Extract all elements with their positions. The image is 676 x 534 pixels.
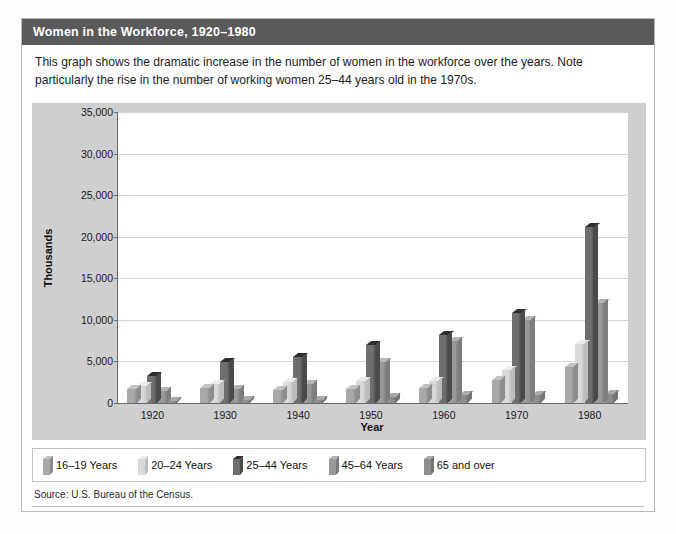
y-tick-label: 0	[107, 397, 113, 409]
bar-side	[501, 375, 505, 403]
legend-swatch-face	[43, 459, 50, 475]
x-tick-label: 1980	[565, 409, 615, 421]
bar-side	[458, 336, 462, 403]
bar	[200, 388, 210, 403]
bar-side	[614, 389, 618, 403]
y-tick-label: 25,000	[81, 189, 113, 201]
bar-side	[531, 315, 535, 403]
y-tick-label: 30,000	[81, 148, 113, 160]
bar-side	[594, 222, 598, 403]
bar-face	[273, 390, 283, 403]
bar-group: 1970	[492, 112, 542, 403]
bar-group: 1980	[565, 112, 615, 403]
x-tick-label: 1950	[346, 409, 396, 421]
bar-side	[448, 330, 452, 403]
y-tick-label: 5,000	[87, 355, 113, 367]
bar-side	[366, 377, 370, 403]
bar-side	[230, 358, 234, 403]
y-tick-mark	[114, 195, 118, 196]
y-tick-label: 35,000	[81, 106, 113, 118]
bar	[419, 388, 429, 403]
legend-swatch-side	[50, 455, 53, 474]
y-tick-mark	[114, 320, 118, 321]
bar-face	[419, 388, 429, 403]
bar-side	[541, 390, 545, 403]
page-background: Women in the Workforce, 1920–1980 This g…	[0, 0, 676, 534]
bar	[346, 389, 356, 403]
legend-swatch-face	[424, 459, 431, 475]
x-tick-label: 1960	[419, 409, 469, 421]
figure-caption: This graph shows the dramatic increase i…	[22, 45, 654, 97]
legend-label: 20–24 Years	[151, 459, 212, 471]
legend-swatch	[138, 456, 145, 475]
x-tick-label: 1930	[200, 409, 250, 421]
figure-title: Women in the Workforce, 1920–1980	[22, 25, 256, 39]
bar-group: 1940	[273, 112, 323, 403]
bar-side	[511, 365, 515, 403]
bar-side	[584, 340, 588, 403]
bar-face	[346, 389, 356, 403]
source-note: Source: U.S. Bureau of the Census.	[34, 489, 193, 500]
legend-swatch-side	[145, 455, 148, 474]
y-tick-mark	[114, 403, 118, 404]
y-tick-mark	[114, 361, 118, 362]
y-tick-label: 10,000	[81, 314, 113, 326]
legend-swatch	[424, 456, 431, 475]
bar-side	[468, 390, 472, 403]
bar-group: 1960	[419, 112, 469, 403]
bar-side	[521, 309, 525, 403]
bar	[167, 401, 177, 403]
bar-side	[386, 358, 390, 403]
legend-swatch-side	[240, 455, 243, 474]
legend-item: 20–24 Years	[138, 456, 212, 475]
bar-side	[293, 378, 297, 403]
legend-swatch	[43, 456, 50, 475]
bar	[273, 390, 283, 403]
bar-face	[565, 367, 575, 403]
bar-side	[604, 299, 608, 403]
bar-group: 1930	[200, 112, 250, 403]
legend-item: 25–44 Years	[233, 456, 307, 475]
bar-side	[303, 353, 307, 403]
y-tick-mark	[114, 237, 118, 238]
bar-side	[220, 379, 224, 403]
x-tick-label: 1940	[273, 409, 323, 421]
bar-side	[147, 381, 151, 403]
legend-swatch	[233, 456, 240, 475]
legend-label: 45–64 Years	[342, 459, 403, 471]
legend-label: 65 and over	[437, 459, 495, 471]
figure-title-bar: Women in the Workforce, 1920–1980	[22, 19, 654, 45]
bar-side	[376, 340, 380, 403]
legend-item: 16–19 Years	[43, 456, 117, 475]
source-divider	[32, 506, 644, 507]
legend-item: 65 and over	[424, 456, 495, 475]
plot-area: 05,00010,00015,00020,00025,00030,00035,0…	[117, 112, 628, 404]
y-tick-label: 15,000	[81, 272, 113, 284]
legend-swatch	[329, 456, 336, 475]
y-tick-mark	[114, 112, 118, 113]
bar-face	[492, 380, 502, 403]
x-tick-label: 1920	[127, 409, 177, 421]
bar	[127, 389, 137, 403]
legend-swatch-side	[336, 455, 339, 474]
bar-side	[574, 363, 578, 403]
bar-face	[127, 389, 137, 403]
bar-face	[200, 388, 210, 403]
legend-label: 16–19 Years	[56, 459, 117, 471]
legend-label: 25–44 Years	[246, 459, 307, 471]
x-tick-label: 1970	[492, 409, 542, 421]
bar	[565, 367, 575, 403]
y-tick-mark	[114, 278, 118, 279]
x-axis-label: Year	[117, 421, 627, 433]
bar-group: 1920	[127, 112, 177, 403]
y-axis-label: Thousands	[42, 229, 54, 288]
bar	[492, 380, 502, 403]
legend-item: 45–64 Years	[329, 456, 403, 475]
chart-legend: 16–19 Years20–24 Years25–44 Years45–64 Y…	[32, 448, 646, 482]
bar-side	[157, 372, 161, 403]
y-tick-mark	[114, 154, 118, 155]
bar-side	[313, 379, 317, 403]
bar-group: 1950	[346, 112, 396, 403]
chart-panel: Thousands 05,00010,00015,00020,00025,000…	[32, 103, 646, 440]
y-tick-label: 20,000	[81, 231, 113, 243]
